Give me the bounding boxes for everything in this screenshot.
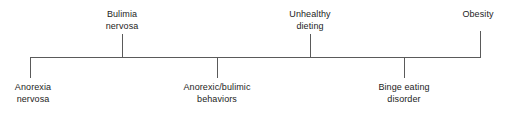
connector-unhealthy-dieting: [310, 34, 311, 58]
label-line: Obesity: [462, 8, 493, 20]
connector-obesity: [480, 31, 481, 58]
label-line: dieting: [289, 20, 330, 32]
label-line: Bulimia: [106, 8, 139, 20]
node-label-bulimia-nervosa: Bulimia nervosa: [106, 8, 139, 32]
connector-binge-eating-disorder: [404, 57, 405, 78]
node-label-anorexic-bulimic-behaviors: Anorexic/bulimic behaviors: [183, 81, 250, 105]
node-label-unhealthy-dieting: Unhealthy dieting: [289, 8, 330, 32]
connector-bulimia-nervosa: [122, 34, 123, 58]
connector-anorexic-bulimic-behaviors: [217, 57, 218, 78]
label-line: nervosa: [106, 20, 139, 32]
label-line: Anorexia: [15, 81, 51, 93]
node-label-anorexia-nervosa: Anorexia nervosa: [15, 81, 51, 105]
connector-anorexia-nervosa: [30, 57, 31, 78]
label-line: behaviors: [183, 93, 250, 105]
label-line: nervosa: [15, 93, 51, 105]
continuum-axis-line: [30, 57, 481, 58]
node-label-obesity: Obesity: [462, 8, 493, 20]
continuum-diagram: Bulimia nervosa Unhealthy dieting Obesit…: [0, 0, 510, 114]
node-label-binge-eating-disorder: Binge eating disorder: [378, 81, 429, 105]
label-line: Anorexic/bulimic: [183, 81, 250, 93]
label-line: disorder: [378, 93, 429, 105]
label-line: Unhealthy: [289, 8, 330, 20]
label-line: Binge eating: [378, 81, 429, 93]
